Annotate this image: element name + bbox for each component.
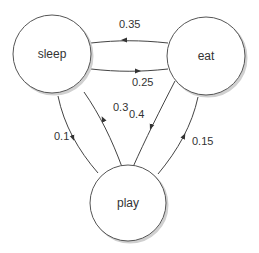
edge-label-eat-sleep: 0.35 <box>119 18 140 30</box>
node-label-eat: eat <box>198 49 215 63</box>
node-play: play <box>90 165 167 242</box>
node-label-play: play <box>117 196 139 210</box>
edge-play-eat: 0.15 <box>158 97 213 174</box>
edge-label-play-eat: 0.15 <box>192 135 213 147</box>
state-diagram: 0.35 0.25 0.1 0.3 0.4 0.15 sleep eat <box>0 0 259 253</box>
node-sleep: sleep <box>13 15 92 94</box>
node-label-sleep: sleep <box>38 47 67 61</box>
edge-eat-play: 0.4 <box>129 81 175 167</box>
node-eat: eat <box>167 17 246 96</box>
edge-label-sleep-play: 0.1 <box>54 130 69 142</box>
edge-label-play-sleep: 0.3 <box>113 101 128 113</box>
edge-label-eat-play: 0.4 <box>129 108 144 120</box>
edge-sleep-play: 0.1 <box>54 96 98 173</box>
edge-label-sleep-eat: 0.25 <box>132 76 153 88</box>
edge-sleep-eat: 0.25 <box>91 69 168 88</box>
edge-play-sleep: 0.3 <box>84 92 128 167</box>
edge-eat-sleep: 0.35 <box>91 18 168 43</box>
